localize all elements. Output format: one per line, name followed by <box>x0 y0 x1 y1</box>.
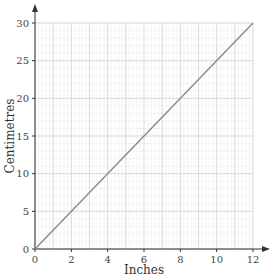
y-axis-title: Centimetres <box>3 99 17 174</box>
y-tick-label: 30 <box>16 18 29 29</box>
y-tick-label: 20 <box>16 93 29 104</box>
y-tick-label: 10 <box>16 168 29 179</box>
x-tick-label: 2 <box>68 254 74 265</box>
x-tick-label: 0 <box>32 254 38 265</box>
x-tick-label: 12 <box>247 254 260 265</box>
y-tick-label: 0 <box>23 244 29 255</box>
y-tick-label: 25 <box>16 55 29 66</box>
x-tick-label: 10 <box>210 254 223 265</box>
y-tick-label: 15 <box>16 131 29 142</box>
x-axis-title: Inches <box>124 263 164 277</box>
y-axis-arrow-icon <box>32 4 38 12</box>
x-axis-arrow-icon <box>262 246 270 252</box>
y-tick-label: 5 <box>23 206 29 217</box>
x-tick-label: 8 <box>177 254 183 265</box>
conversion-chart: 024681012051015202530 Inches Centimetres <box>0 0 273 279</box>
x-tick-label: 4 <box>104 254 110 265</box>
